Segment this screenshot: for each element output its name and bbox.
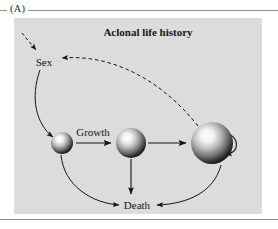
diagram-title: Aclonal life history: [103, 26, 193, 38]
edge-label-growth: Growth: [76, 126, 110, 138]
life-history-diagram: Aclonal life history Sex Growth Death: [0, 0, 278, 229]
edge-external-to-sex: [22, 33, 36, 50]
edge-large-to-death: [157, 165, 221, 205]
node-label-sex: Sex: [36, 56, 53, 68]
sphere-stage-medium: [116, 128, 146, 158]
figure-root: (A) Aclonal life history: [0, 0, 278, 229]
node-label-death: Death: [124, 199, 151, 211]
edge-sex-to-small: [35, 70, 53, 137]
edge-small-to-death: [61, 155, 119, 205]
sphere-stage-small: [51, 132, 73, 154]
sphere-stage-large: [191, 122, 233, 164]
edge-large-to-sex: [62, 58, 198, 126]
